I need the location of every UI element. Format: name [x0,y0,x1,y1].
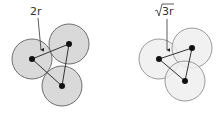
center-dot-a [29,56,35,62]
center-dot-c [182,78,188,84]
distance-label-sqrt3r: 3r [162,5,174,18]
center-dot-b [66,41,72,47]
center-dot-b [189,45,195,51]
left-diagram-touching-circles: 2r [12,5,89,106]
distance-label-2r: 2r [30,5,42,18]
center-dot-a [156,56,162,62]
right-diagram-overlapping-circles: 3r [139,4,212,101]
center-dot-c [59,83,65,89]
circle-packing-diagram: 2r 3r [0,0,224,115]
